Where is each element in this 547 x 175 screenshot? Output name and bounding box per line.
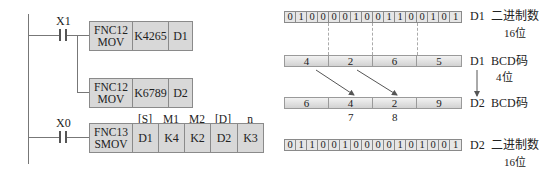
d2-binary-width-label: 16位 (504, 153, 526, 169)
shift-arrow-digit-2 (357, 70, 397, 95)
d2-bit: 1 (296, 140, 307, 150)
d2-bit: 0 (428, 140, 439, 150)
shift-arrows (0, 0, 547, 175)
d2-bit: 0 (362, 140, 373, 150)
d2-bcd-digit: 4 (329, 98, 373, 108)
d2-bcd-row: 6 4 2 9 (284, 97, 462, 109)
d2-bit: 1 (450, 140, 461, 150)
d2-bit: 0 (318, 140, 329, 150)
d2-bit: 1 (395, 140, 406, 150)
d2-bcd-digit: 2 (373, 98, 417, 108)
d2-bcd-reg-label: D2 (470, 97, 485, 110)
d2-bcd-digit: 9 (417, 98, 461, 108)
replaced-digit-8: 8 (392, 111, 398, 123)
shift-arrow-digit-4 (316, 70, 354, 95)
d2-bit: 0 (329, 140, 340, 150)
d2-bit: 0 (351, 140, 362, 150)
d2-bcd-desc-label: BCD码 (491, 97, 528, 110)
d2-bit: 1 (307, 140, 318, 150)
d2-binary-row: 0 1 1 0 0 1 0 0 0 0 1 0 1 0 0 1 (284, 139, 462, 151)
d2-bit: 0 (406, 140, 417, 150)
d2-binary-desc-label: 二进制数 (491, 139, 539, 152)
replaced-digit-7: 7 (348, 111, 354, 123)
d2-bcd-digit: 6 (285, 98, 329, 108)
d2-binary-reg-label: D2 (470, 139, 485, 152)
d2-bit: 1 (417, 140, 428, 150)
d2-bit: 0 (373, 140, 384, 150)
d2-bit: 1 (340, 140, 351, 150)
d2-bit: 0 (285, 140, 296, 150)
d2-bit: 0 (439, 140, 450, 150)
d2-bit: 0 (384, 140, 395, 150)
